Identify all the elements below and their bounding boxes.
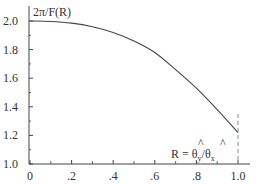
y-axis-label: 2π/F(R): [33, 5, 71, 19]
x-tick-label: .6: [150, 169, 159, 183]
svg-text:R = θy/θx: R = θy/θx: [171, 147, 215, 163]
x-tick-label: .2: [67, 169, 76, 183]
chart: 1.01.21.41.61.82.0 0.2.4.6.81.0 2π/F(R) …: [0, 0, 258, 184]
svg-text:^: ^: [198, 136, 204, 150]
y-tick-label: 1.0: [3, 157, 18, 171]
x-axis-ticks: 0.2.4.6.81.0: [27, 160, 246, 183]
y-tick-label: 1.6: [3, 71, 18, 85]
y-tick-label: 2.0: [3, 14, 18, 28]
y-tick-label: 1.8: [3, 43, 18, 57]
ratio-annotation: R = θy/θx ^ ^: [171, 136, 226, 163]
svg-text:^: ^: [220, 136, 226, 150]
x-tick-label: .4: [109, 169, 118, 183]
x-tick-label: 1.0: [231, 169, 246, 183]
y-tick-label: 1.2: [3, 128, 18, 142]
x-tick-label: 0: [27, 169, 33, 183]
data-series-line: [30, 21, 238, 133]
y-tick-label: 1.4: [3, 100, 18, 114]
x-tick-label: .8: [192, 169, 201, 183]
